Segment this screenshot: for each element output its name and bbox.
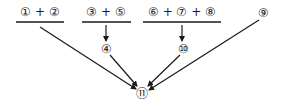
arrow-10-to-11 [148, 55, 180, 86]
node-4: ④ [101, 42, 112, 56]
node-10: ⑩ [178, 42, 189, 56]
group-c-label: ⑥ + ⑦ + ⑧ [148, 5, 216, 19]
arrow-9-to-11 [149, 20, 259, 90]
group-b-label: ③ + ⑤ [86, 5, 126, 19]
arrow-group-a-to-11 [40, 27, 136, 89]
group-a-label: ① + ② [20, 5, 60, 19]
node-9: ⑨ [258, 6, 269, 20]
node-11: ⑪ [136, 87, 148, 101]
